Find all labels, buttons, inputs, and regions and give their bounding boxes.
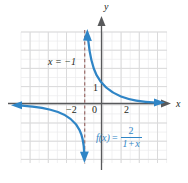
equation-function-name: f(x) <box>96 133 110 143</box>
equation-equals-sign: = <box>112 133 118 143</box>
asymptote-label: x = −1 <box>48 57 76 67</box>
x-tick-label-neg2: −2 <box>66 105 77 115</box>
grid-minor <box>21 32 167 163</box>
left-branch-left-arrowhead <box>11 101 22 109</box>
function-equation: f(x) = 2 1+x <box>96 126 142 149</box>
y-axis-arrowhead <box>98 16 106 26</box>
equation-fraction: 2 1+x <box>121 126 142 149</box>
equation-numerator: 2 <box>126 126 137 137</box>
x-tick-label-2: 2 <box>124 105 129 115</box>
equation-denominator-operator: + <box>129 138 135 149</box>
y-axis-label: y <box>104 2 108 12</box>
y-tick-label-1: 1 <box>93 83 98 93</box>
function-graph-figure: x y x = −1 0 −2 2 1 f(x) = 2 1+x <box>0 0 188 183</box>
equation-denominator-right: x <box>135 138 139 149</box>
x-axis-label: x <box>176 99 180 109</box>
equation-denominator: 1+x <box>121 138 142 149</box>
equation-denominator-left: 1 <box>123 138 128 149</box>
left-branch-down-arrowhead <box>80 152 89 164</box>
x-tick-label-0: 0 <box>92 105 97 115</box>
curve-right-branch <box>83 29 165 107</box>
